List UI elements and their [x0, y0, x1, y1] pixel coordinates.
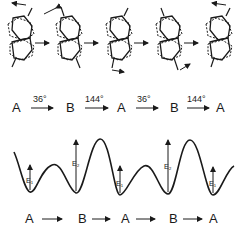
angle-label: 144° — [187, 95, 206, 104]
state-label: A — [25, 212, 34, 225]
energy-label: E₁ — [26, 177, 33, 184]
angle-label: 36° — [137, 95, 151, 104]
molecule-3 — [106, 8, 132, 72]
molecule-2 — [44, 7, 82, 68]
molecule-1 — [8, 3, 34, 67]
energy-label: E₂ — [164, 163, 171, 170]
state-label: A — [209, 212, 218, 225]
energy-curve — [14, 139, 234, 195]
state-label: B — [170, 101, 179, 114]
state-label: B — [169, 212, 178, 225]
state-label: A — [12, 101, 21, 114]
state-label: A — [216, 101, 225, 114]
molecule-4 — [156, 8, 190, 70]
conformer-diagram — [0, 0, 248, 234]
state-label: B — [78, 212, 87, 225]
energy-label: E₁ — [116, 180, 123, 187]
molecule-5 — [206, 3, 232, 67]
state-label: B — [66, 101, 75, 114]
angle-label: 144° — [85, 95, 104, 104]
energy-label: E₂ — [72, 160, 79, 167]
angle-label: 36° — [33, 95, 47, 104]
energy-label: E₁ — [209, 180, 216, 187]
state-label: A — [121, 212, 130, 225]
state-label: A — [117, 101, 126, 114]
